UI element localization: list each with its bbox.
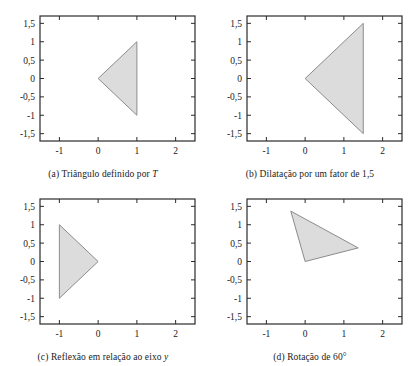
y-tick-label: -1,5 (227, 312, 242, 322)
x-tick-label: 1 (135, 146, 140, 156)
y-tick-label: -1,5 (20, 129, 35, 139)
plot-d: -10121,510,50-0,5-1-1,5 (207, 183, 413, 366)
y-tick-label: -1 (27, 294, 35, 304)
x-tick-label: 2 (380, 146, 385, 156)
caption-c: (c) Reflexão em relação ao eixo y (0, 352, 206, 362)
x-tick-label: 1 (342, 329, 347, 339)
y-tick-label: 0 (237, 257, 242, 267)
panel-b: -10121,510,50-0,5-1-1,5 (b) Dilatação po… (207, 0, 413, 183)
plot-b: -10121,510,50-0,5-1-1,5 (207, 0, 413, 183)
caption-a: (a) Triângulo definido por T (0, 169, 206, 179)
y-tick-label: 1 (237, 220, 242, 230)
y-tick-label: -1,5 (227, 129, 242, 139)
x-tick-label: 0 (303, 329, 308, 339)
triangle-shape (59, 225, 98, 299)
y-tick-label: 0,5 (23, 56, 35, 66)
y-tick-label: 1,5 (23, 19, 35, 29)
y-tick-label: 0,5 (230, 56, 242, 66)
y-tick-label: 0 (30, 74, 35, 84)
caption-c-text: Reflexão em relação ao eixo (51, 352, 164, 362)
y-tick-label: 1,5 (23, 202, 35, 212)
y-tick-label: -0,5 (227, 275, 242, 285)
x-tick-label: 2 (173, 329, 178, 339)
y-tick-label: -0,5 (20, 275, 35, 285)
y-tick-label: -1 (234, 294, 242, 304)
panel-c: -10121,510,50-0,5-1-1,5 (c) Reflexão em … (0, 183, 206, 366)
x-tick-label: 1 (342, 146, 347, 156)
triangle-shape (291, 211, 358, 261)
caption-a-italic: T (152, 169, 157, 179)
caption-c-italic: y (164, 352, 168, 362)
x-tick-label: -1 (55, 146, 63, 156)
y-tick-label: 1 (237, 37, 242, 47)
panel-a: -10121,510,50-0,5-1-1,5 (a) Triângulo de… (0, 0, 206, 183)
caption-b-text: Dilatação por um fator de 1,5 (260, 169, 375, 179)
plot-a: -10121,510,50-0,5-1-1,5 (0, 0, 206, 183)
y-tick-label: 0 (30, 257, 35, 267)
y-tick-label: 1,5 (230, 202, 242, 212)
y-tick-label: -0,5 (227, 92, 242, 102)
y-tick-label: 0,5 (230, 239, 242, 249)
triangle-shape (305, 23, 363, 133)
caption-d: (d) Rotação de 60° (207, 352, 413, 362)
caption-d-text: Rotação de 60° (287, 352, 346, 362)
x-tick-label: -1 (262, 146, 270, 156)
y-tick-label: 1,5 (230, 19, 242, 29)
y-tick-label: 0 (237, 74, 242, 84)
y-tick-label: 1 (30, 220, 35, 230)
figure-transformations: -10121,510,50-0,5-1-1,5 (a) Triângulo de… (0, 0, 413, 366)
x-tick-label: 2 (380, 329, 385, 339)
caption-d-prefix: (d) (273, 352, 287, 362)
x-tick-label: 0 (303, 146, 308, 156)
caption-a-prefix: (a) (48, 169, 61, 179)
x-tick-label: 2 (173, 146, 178, 156)
caption-c-prefix: (c) (38, 352, 51, 362)
x-tick-label: -1 (262, 329, 270, 339)
panel-d: -10121,510,50-0,5-1-1,5 (d) Rotação de 6… (207, 183, 413, 366)
caption-b-prefix: (b) (246, 169, 260, 179)
y-tick-label: -1,5 (20, 312, 35, 322)
caption-a-text: Triângulo definido por (61, 169, 152, 179)
caption-b: (b) Dilatação por um fator de 1,5 (207, 169, 413, 179)
triangle-shape (98, 42, 137, 116)
y-tick-label: 1 (30, 37, 35, 47)
plot-c: -10121,510,50-0,5-1-1,5 (0, 183, 206, 366)
x-tick-label: 0 (96, 329, 101, 339)
y-tick-label: -1 (27, 111, 35, 121)
x-tick-label: 0 (96, 146, 101, 156)
y-tick-label: -0,5 (20, 92, 35, 102)
y-tick-label: -1 (234, 111, 242, 121)
axis-frame (247, 199, 402, 324)
x-tick-label: 1 (135, 329, 140, 339)
y-tick-label: 0,5 (23, 239, 35, 249)
x-tick-label: -1 (55, 329, 63, 339)
